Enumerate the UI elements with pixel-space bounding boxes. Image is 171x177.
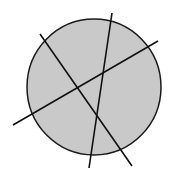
circle-lines-diagram <box>0 0 171 177</box>
